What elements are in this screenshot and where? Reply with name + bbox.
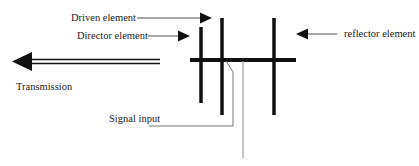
reflector-pointer-arrow — [296, 29, 337, 40]
signal-input-label: Signal input — [109, 114, 160, 125]
transmission-label: Transmission — [16, 82, 72, 93]
transmission-arrow — [12, 52, 160, 71]
director-element-label: Director element — [77, 31, 148, 42]
driven-pointer-arrow — [137, 13, 212, 24]
reflector-element-label: reflector element — [344, 29, 415, 40]
driven-element-label: Driven element — [71, 13, 136, 24]
director-pointer-arrow — [148, 31, 190, 42]
